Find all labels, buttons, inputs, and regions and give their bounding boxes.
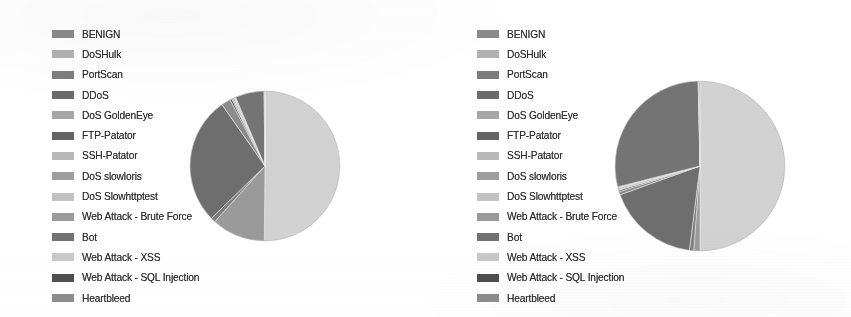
legend-label: Web Attack - XSS — [82, 252, 160, 263]
pie-slices-right — [611, 77, 789, 255]
legend-swatch-icon — [477, 193, 499, 201]
legend-label: Bot — [507, 232, 522, 243]
legend-label: DDoS — [507, 90, 534, 101]
legend-swatch-icon — [477, 172, 499, 180]
legend-label: Web Attack - Brute Force — [82, 211, 192, 222]
legend-label: Bot — [82, 232, 97, 243]
legend-swatch-icon — [477, 111, 499, 119]
pie-slices-left — [186, 87, 344, 245]
legend-item-heartbleed[interactable]: Heartbleed — [477, 288, 652, 308]
legend-swatch-icon — [477, 30, 499, 38]
legend-item-doshulk[interactable]: DoSHulk — [52, 44, 227, 64]
legend-item-benign[interactable]: BENIGN — [477, 24, 652, 44]
legend-label: DoS Slowhttptest — [507, 191, 583, 202]
legend-label: DoSHulk — [507, 49, 546, 60]
legend-label: PortScan — [82, 69, 123, 80]
legend-swatch-icon — [52, 91, 74, 99]
legend-label: Heartbleed — [82, 293, 130, 304]
legend-swatch-icon — [52, 50, 74, 58]
legend-label: DDoS — [82, 90, 109, 101]
legend-swatch-icon — [52, 253, 74, 261]
pie-chart-right[interactable] — [611, 77, 789, 255]
legend-swatch-icon — [52, 213, 74, 221]
legend-label: DoS GoldenEye — [82, 110, 153, 121]
legend-item-doshulk[interactable]: DoSHulk — [477, 44, 652, 64]
legend-label: Web Attack - XSS — [507, 252, 585, 263]
pie-slice-benign[interactable] — [264, 91, 340, 241]
legend-label: DoS GoldenEye — [507, 110, 578, 121]
legend-swatch-icon — [52, 233, 74, 241]
legend-label: FTP-Patator — [82, 130, 136, 141]
legend-label: DoS Slowhttptest — [82, 191, 158, 202]
legend-label: DoS slowloris — [82, 171, 142, 182]
legend-swatch-icon — [477, 274, 499, 282]
legend-label: PortScan — [507, 69, 548, 80]
pie-chart-left[interactable] — [186, 87, 344, 245]
legend-label: FTP-Patator — [507, 130, 561, 141]
legend-item-portscan[interactable]: PortScan — [52, 65, 227, 85]
legend-item-web-attack-xss[interactable]: Web Attack - XSS — [52, 247, 227, 267]
legend-swatch-icon — [52, 274, 74, 282]
legend-swatch-icon — [477, 91, 499, 99]
legend-label: Heartbleed — [507, 293, 555, 304]
legend-item-web-attack-sql-injection[interactable]: Web Attack - SQL Injection — [52, 268, 227, 288]
legend-swatch-icon — [52, 294, 74, 302]
pie-figure-left: BENIGNDoSHulkPortScanDDoSDoS GoldenEyeFT… — [0, 0, 425, 317]
legend-swatch-icon — [477, 233, 499, 241]
legend-item-heartbleed[interactable]: Heartbleed — [52, 288, 227, 308]
legend-swatch-icon — [52, 193, 74, 201]
pie-slice-benign[interactable] — [700, 81, 785, 251]
legend-swatch-icon — [477, 253, 499, 261]
legend-label: SSH-Patator — [507, 150, 563, 161]
legend-swatch-icon — [477, 213, 499, 221]
pie-figure-right: BENIGNDoSHulkPortScanDDoSDoS GoldenEyeFT… — [425, 0, 850, 317]
legend-swatch-icon — [477, 152, 499, 160]
legend-swatch-icon — [52, 152, 74, 160]
legend-swatch-icon — [52, 30, 74, 38]
legend-swatch-icon — [477, 71, 499, 79]
legend-label: SSH-Patator — [82, 150, 138, 161]
legend-label: Web Attack - SQL Injection — [82, 272, 199, 283]
legend-item-benign[interactable]: BENIGN — [52, 24, 227, 44]
legend-item-web-attack-sql-injection[interactable]: Web Attack - SQL Injection — [477, 268, 652, 288]
legend-label: Web Attack - SQL Injection — [507, 272, 624, 283]
legend-label: BENIGN — [82, 29, 120, 40]
legend-swatch-icon — [52, 132, 74, 140]
legend-swatch-icon — [52, 71, 74, 79]
legend-swatch-icon — [477, 132, 499, 140]
legend-swatch-icon — [477, 294, 499, 302]
legend-label: Web Attack - Brute Force — [507, 211, 617, 222]
legend-swatch-icon — [52, 172, 74, 180]
legend-swatch-icon — [52, 111, 74, 119]
legend-label: DoSHulk — [82, 49, 121, 60]
legend-label: BENIGN — [507, 29, 545, 40]
legend-label: DoS slowloris — [507, 171, 567, 182]
legend-swatch-icon — [477, 50, 499, 58]
